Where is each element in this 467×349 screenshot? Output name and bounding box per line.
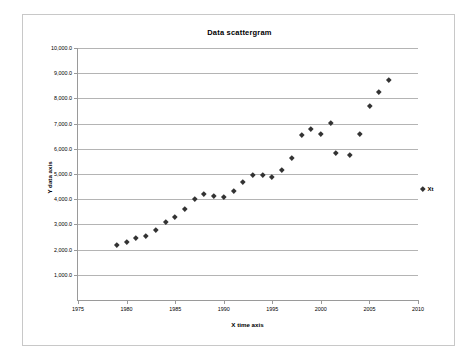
plot-area: 1,000.02,000.03,000.04,000.05,000.06,000… (77, 48, 418, 301)
x-tick-mark (224, 300, 225, 304)
x-tick-mark (78, 300, 79, 304)
gridline (78, 199, 418, 200)
x-tick-label: 2005 (363, 306, 375, 312)
gridline (78, 73, 418, 74)
y-tick-label: 9,000.0 (54, 70, 72, 76)
x-tick-label: 1980 (121, 306, 133, 312)
gridline (78, 250, 418, 251)
x-tick-mark (175, 300, 176, 304)
x-tick-mark (127, 300, 128, 304)
y-tick-label: 1,000.0 (54, 272, 72, 278)
gridline (78, 149, 418, 150)
y-tick-label: 4,000.0 (54, 196, 72, 202)
y-axis-title: Y data axis (46, 138, 53, 218)
x-tick-label: 2010 (412, 306, 424, 312)
legend-label: Xt (428, 186, 434, 192)
x-tick-label: 1995 (266, 306, 278, 312)
x-axis-title: X time axis (77, 321, 418, 328)
y-tick-label: 8,000.0 (54, 95, 72, 101)
y-tick-mark (74, 98, 78, 99)
chart-frame: Data scattergram 1,000.02,000.03,000.04,… (22, 14, 455, 346)
y-tick-label: 5,000.0 (54, 171, 72, 177)
y-tick-mark (74, 149, 78, 150)
gridline (78, 48, 418, 49)
y-tick-mark (74, 48, 78, 49)
gridline (78, 224, 418, 225)
y-tick-mark (74, 275, 78, 276)
x-tick-mark (418, 300, 419, 304)
chart-legend: Xt (421, 186, 434, 192)
x-tick-mark (321, 300, 322, 304)
gridline (78, 124, 418, 125)
gridline (78, 174, 418, 175)
y-tick-label: 7,000.0 (54, 121, 72, 127)
chart-title: Data scattergram (23, 28, 456, 37)
y-tick-mark (74, 73, 78, 74)
x-tick-mark (272, 300, 273, 304)
y-tick-mark (74, 199, 78, 200)
y-tick-mark (74, 124, 78, 125)
gridline (78, 275, 418, 276)
y-tick-mark (74, 224, 78, 225)
y-tick-label: 10,000.0 (51, 45, 72, 51)
legend-marker-icon (420, 186, 425, 191)
y-tick-label: 3,000.0 (54, 221, 72, 227)
gridline (78, 98, 418, 99)
y-tick-label: 2,000.0 (54, 247, 72, 253)
x-tick-label: 1990 (218, 306, 230, 312)
y-tick-mark (74, 174, 78, 175)
gridlines (78, 48, 418, 300)
x-tick-mark (369, 300, 370, 304)
y-tick-label: 6,000.0 (54, 146, 72, 152)
x-tick-label: 1975 (72, 306, 84, 312)
x-tick-label: 1985 (169, 306, 181, 312)
y-tick-mark (74, 250, 78, 251)
x-tick-label: 2000 (315, 306, 327, 312)
